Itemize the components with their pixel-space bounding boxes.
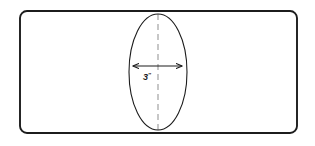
- dimension-label-unit: ″: [148, 72, 152, 78]
- vertical-ellipse: [129, 14, 187, 130]
- technical-drawing-canvas: 3″: [0, 0, 315, 146]
- dimension-label: 3″: [143, 72, 152, 82]
- diagram-svg: 3″: [0, 0, 315, 146]
